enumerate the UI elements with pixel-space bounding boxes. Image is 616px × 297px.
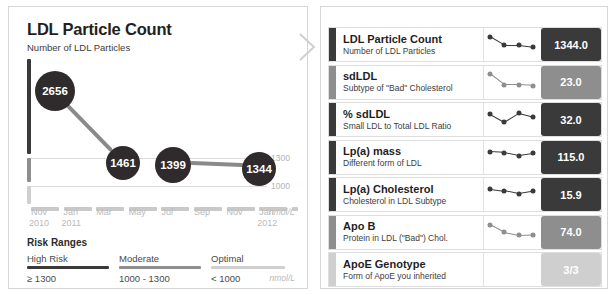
biomarker-row[interactable]: sdLDLSubtype of "Bad" Cholesterol23.0 xyxy=(328,65,602,100)
risk-range-bar xyxy=(27,266,109,269)
sparkline-point xyxy=(488,112,493,117)
sparkline-point xyxy=(502,120,507,125)
sparkline-point xyxy=(516,111,521,116)
biomarker-row[interactable]: Apo BProtein in LDL ("Bad") Chol.74.0 xyxy=(328,215,602,250)
page-subtitle: Number of LDL Particles xyxy=(27,42,130,53)
biomarker-row[interactable]: % sdLDLSmall LDL to Total LDL Ratio32.0 xyxy=(328,102,602,137)
gridline-label-1000: 1000 xyxy=(271,181,290,191)
x-tick-label-month: Nov xyxy=(31,207,47,217)
biomarker-name: Apo B xyxy=(343,220,483,233)
row-status-bar xyxy=(329,103,336,136)
x-tick-label-month: Mar xyxy=(96,207,112,217)
biomarker-name: LDL Particle Count xyxy=(343,33,483,46)
risk-range-value: ≥ 1300 xyxy=(27,273,109,284)
y-axis-segment-optimal xyxy=(27,186,31,204)
biomarker-sparkline xyxy=(484,103,541,136)
sparkline-point xyxy=(531,44,536,49)
row-status-bar xyxy=(329,66,336,99)
row-text-cell: % sdLDLSmall LDL to Total LDL Ratio xyxy=(336,103,484,136)
x-tick-label-month: Jul xyxy=(161,207,173,217)
risk-ranges-units: nmol/L xyxy=(269,273,295,283)
sparkline-point xyxy=(502,230,507,235)
x-tick-label-month: Jan xyxy=(64,207,79,217)
row-text-cell: sdLDLSubtype of "Bad" Cholesterol xyxy=(336,66,484,99)
sparkline-point xyxy=(488,222,493,227)
risk-range-bar xyxy=(211,266,285,269)
row-status-bar xyxy=(329,178,336,211)
risk-range-bar xyxy=(119,266,201,269)
biomarker-value: 23.0 xyxy=(541,66,601,99)
row-status-bar xyxy=(329,216,336,249)
risk-range-name: Optimal xyxy=(211,253,285,264)
biomarker-value: 3/3 xyxy=(541,253,601,286)
sparkline-point xyxy=(531,189,536,194)
ldl-chart-panel: LDL Particle Count Number of LDL Particl… xyxy=(8,6,308,289)
chart-data-point: 1461 xyxy=(106,146,140,180)
y-axis-segment-moderate xyxy=(27,158,31,182)
row-text-cell: Lp(a) CholesterolCholesterol in LDL Subt… xyxy=(336,178,484,211)
row-text-cell: ApoE GenotypeForm of ApoE you inherited xyxy=(336,253,484,286)
biomarker-row[interactable]: Lp(a) massDifferent form of LDL115.0 xyxy=(328,140,602,175)
sparkline-point xyxy=(502,150,507,155)
biomarker-row[interactable]: Lp(a) CholesterolCholesterol in LDL Subt… xyxy=(328,177,602,212)
biomarker-description: Cholesterol in LDL Subtype xyxy=(343,196,483,207)
row-status-bar xyxy=(329,141,336,174)
sparkline-point xyxy=(531,115,536,120)
biomarker-description: Different form of LDL xyxy=(343,158,483,169)
sparkline-point xyxy=(488,187,493,192)
biomarker-sparkline xyxy=(484,216,541,249)
y-axis-segment-high-risk xyxy=(27,59,31,154)
sparkline-point xyxy=(488,71,493,76)
sparkline-point xyxy=(516,233,521,238)
sparkline-point xyxy=(516,43,521,48)
risk-range-name: High Risk xyxy=(27,253,109,264)
sparkline-point xyxy=(516,82,521,87)
biomarker-value: 32.0 xyxy=(541,103,601,136)
biomarker-value: 1344.0 xyxy=(541,28,601,61)
biomarker-name: % sdLDL xyxy=(343,108,483,121)
page-title: LDL Particle Count xyxy=(27,20,172,39)
sparkline-point xyxy=(502,43,507,48)
row-text-cell: Lp(a) massDifferent form of LDL xyxy=(336,141,484,174)
x-axis-tick-labels: Nov2010Jan2011MarMayJulSepNovJan2012 xyxy=(27,207,297,233)
biomarker-name: Lp(a) Cholesterol xyxy=(343,183,483,196)
biomarker-value: 115.0 xyxy=(541,141,601,174)
sparkline-point xyxy=(531,232,536,237)
sparkline-point xyxy=(516,153,521,158)
biomarker-name: sdLDL xyxy=(343,70,483,83)
biomarker-value: 74.0 xyxy=(541,216,601,249)
chart-data-point: 2656 xyxy=(35,71,75,111)
x-tick-label-year: 2011 xyxy=(62,218,81,228)
sparkline-point xyxy=(488,34,493,39)
x-tick-label-month: Nov xyxy=(227,207,243,217)
risk-ranges-legend: High Risk≥ 1300Moderate1000 - 1300Optima… xyxy=(27,253,295,285)
biomarker-description: Protein in LDL ("Bad") Chol. xyxy=(343,233,483,244)
biomarker-row[interactable]: LDL Particle CountNumber of LDL Particle… xyxy=(328,27,602,62)
row-status-bar xyxy=(329,28,336,61)
chart-connector xyxy=(190,161,244,167)
risk-range-column: High Risk≥ 1300 xyxy=(27,253,109,284)
sparkline-point xyxy=(488,149,493,154)
biomarker-description: Subtype of "Bad" Cholesterol xyxy=(343,83,483,94)
sparkline-point xyxy=(531,151,536,156)
biomarker-name: Lp(a) mass xyxy=(343,145,483,158)
chart-data-point: 1344 xyxy=(242,152,276,186)
row-status-bar xyxy=(329,253,336,286)
biomarker-row[interactable]: ApoE GenotypeForm of ApoE you inherited3… xyxy=(328,252,602,287)
ldl-trend-chart: 1300 1000 2656146113991344 xyxy=(27,59,293,199)
row-text-cell: LDL Particle CountNumber of LDL Particle… xyxy=(336,28,484,61)
gridline-1300 xyxy=(31,158,267,159)
chart-data-point: 1399 xyxy=(155,147,191,183)
biomarker-sparkline xyxy=(484,28,541,61)
biomarker-value: 15.9 xyxy=(541,178,601,211)
sparkline-point xyxy=(502,188,507,193)
sparkline-point xyxy=(502,82,507,87)
x-tick-label-month: May xyxy=(129,207,146,217)
biomarker-name: ApoE Genotype xyxy=(343,258,483,271)
row-text-cell: Apo BProtein in LDL ("Bad") Chol. xyxy=(336,216,484,249)
x-tick-label-month: Sep xyxy=(194,207,210,217)
chart-units-label: nmol/L xyxy=(269,207,295,217)
biomarker-sparkline xyxy=(484,253,541,286)
biomarker-description: Small LDL to Total LDL Ratio xyxy=(343,121,483,132)
biomarker-rows: LDL Particle CountNumber of LDL Particle… xyxy=(328,27,602,290)
